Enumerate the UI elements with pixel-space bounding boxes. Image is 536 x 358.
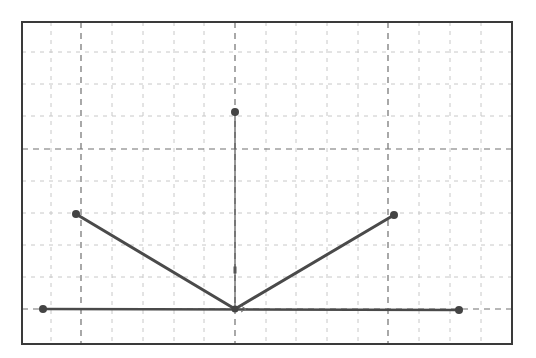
tick-marker [234,267,237,274]
left-arm-segment [76,214,235,309]
point-top [231,108,239,116]
point-left-baseline [39,305,47,313]
diagram-frame [22,22,512,344]
point-origin [232,306,239,313]
grid [22,22,512,344]
segments [43,112,459,310]
point-right-baseline [455,306,463,314]
vector-diagram [0,0,536,358]
point-left-upper [72,210,80,218]
points [39,108,463,314]
baseline-segment [43,309,459,310]
right-arm-segment [235,215,394,309]
point-right-upper [390,211,398,219]
